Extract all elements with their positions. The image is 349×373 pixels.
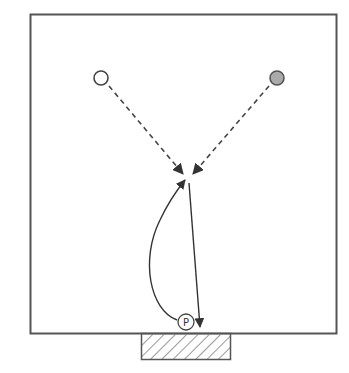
p-player-label: P <box>183 317 189 328</box>
p-player-icon: P <box>178 314 194 330</box>
white-player-icon <box>94 71 108 85</box>
gray-player-icon <box>270 71 284 85</box>
play-diagram: P <box>0 0 349 373</box>
goal-zone <box>142 334 231 360</box>
court-boundary <box>31 15 337 334</box>
